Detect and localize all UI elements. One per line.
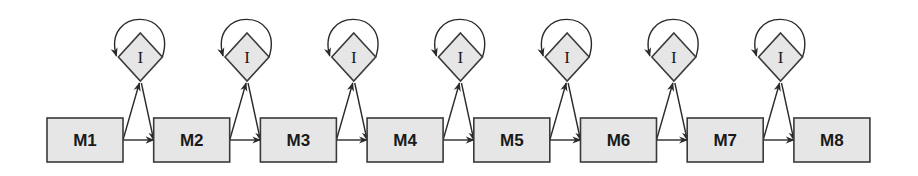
machine-node-m7: M7: [687, 118, 763, 162]
from-inspection-arrow: [461, 83, 473, 140]
inspection-node-i6: I: [652, 33, 696, 81]
to-inspection-arrow: [336, 83, 352, 140]
inspection-node-i5: I: [545, 33, 589, 81]
production-line-diagram: M1M2M3M4M5M6M7M8IIIIIII: [0, 0, 918, 176]
machine-label: M7: [713, 131, 737, 150]
machine-label: M3: [287, 131, 311, 150]
to-inspection-arrow: [657, 83, 673, 140]
inspection-node-i1: I: [118, 33, 162, 81]
from-inspection-arrow: [782, 83, 794, 140]
from-inspection-arrow: [141, 83, 153, 140]
to-inspection-arrow: [123, 83, 139, 140]
machine-label: M5: [500, 131, 524, 150]
inspection-label: I: [778, 48, 784, 67]
machine-node-m2: M2: [154, 118, 230, 162]
inspection-label: I: [671, 48, 677, 67]
from-inspection-arrow: [675, 83, 687, 140]
inspection-node-i2: I: [225, 33, 269, 81]
to-inspection-arrow: [230, 83, 246, 140]
inspection-label: I: [244, 48, 250, 67]
from-inspection-arrow: [355, 83, 367, 140]
machine-label: M6: [607, 131, 631, 150]
machine-node-m1: M1: [47, 118, 123, 162]
inspection-label: I: [351, 48, 357, 67]
from-inspection-arrow: [568, 83, 580, 140]
inspection-label: I: [138, 48, 144, 67]
inspection-label: I: [564, 48, 570, 67]
from-inspection-arrow: [248, 83, 260, 140]
machine-label: M4: [393, 131, 417, 150]
machine-node-m6: M6: [581, 118, 657, 162]
machine-label: M2: [180, 131, 204, 150]
machine-label: M1: [73, 131, 97, 150]
machine-node-m5: M5: [474, 118, 550, 162]
machine-node-m3: M3: [260, 118, 336, 162]
inspection-label: I: [458, 48, 464, 67]
inspection-node-i7: I: [759, 33, 803, 81]
machine-node-m4: M4: [367, 118, 443, 162]
to-inspection-arrow: [763, 83, 779, 140]
machine-label: M8: [820, 131, 844, 150]
inspection-node-i3: I: [332, 33, 376, 81]
machine-node-m8: M8: [794, 118, 870, 162]
nodes: M1M2M3M4M5M6M7M8IIIIIII: [47, 33, 870, 162]
inspection-node-i4: I: [438, 33, 482, 81]
to-inspection-arrow: [443, 83, 459, 140]
to-inspection-arrow: [550, 83, 566, 140]
